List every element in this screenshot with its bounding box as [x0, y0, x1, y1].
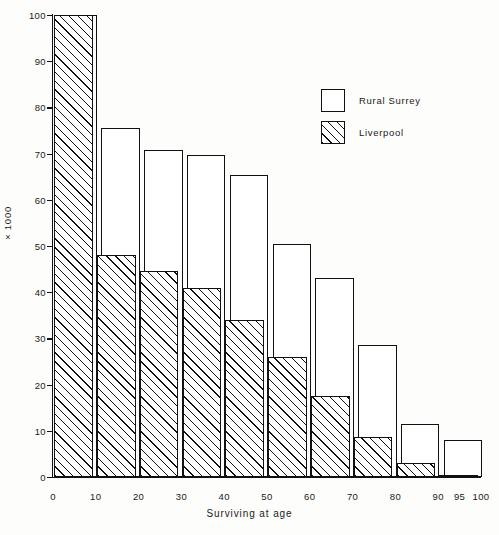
x-tick-label: 0 [50, 491, 56, 502]
bar-liverpool [311, 396, 350, 477]
x-tick-label: 20 [133, 491, 144, 502]
x-axis-title: Surviving at age [0, 508, 499, 519]
survival-bar-chart: 0102030405060708090100010203040506070809… [0, 0, 499, 535]
bar-liverpool [225, 320, 264, 477]
x-tick-label: 30 [176, 491, 187, 502]
y-tick-label: 90 [35, 56, 46, 67]
y-tick-mark [47, 154, 53, 155]
bar-liverpool [268, 357, 307, 477]
y-tick-label: 10 [35, 425, 46, 436]
y-tick-mark [47, 477, 53, 478]
x-tick-label: 70 [347, 491, 358, 502]
x-tick-label: 95 [454, 491, 465, 502]
bar-liverpool [354, 437, 393, 477]
open-square-icon [321, 89, 345, 112]
y-tick-label: 20 [35, 379, 46, 390]
y-tick-mark [47, 61, 53, 62]
legend-label-liverpool: Liverpool [359, 127, 404, 138]
x-tick-label: 10 [90, 491, 101, 502]
y-tick-label: 40 [35, 287, 46, 298]
x-tick-label: 80 [390, 491, 401, 502]
legend-item-rural-surrey: Rural Surrey [321, 84, 421, 116]
x-tick-label: 60 [304, 491, 315, 502]
y-tick-mark [47, 385, 53, 386]
x-axis-line [52, 477, 481, 478]
y-tick-label: 100 [29, 10, 46, 21]
y-tick-mark [47, 200, 53, 201]
y-tick-mark [47, 246, 53, 247]
bar-liverpool [397, 463, 436, 477]
x-tick-label: 100 [472, 491, 489, 502]
bar-rural-surrey [444, 440, 483, 477]
y-tick-mark [47, 431, 53, 432]
y-tick-mark [47, 107, 53, 108]
bar-liverpool [97, 255, 136, 477]
bar-liverpool [183, 288, 222, 477]
y-tick-label: 50 [35, 241, 46, 252]
chart-legend: Rural Surrey Liverpool [321, 84, 421, 148]
bar-liverpool [54, 15, 93, 477]
x-tick-label: 40 [219, 491, 230, 502]
y-tick-mark [47, 292, 53, 293]
y-tick-mark [47, 15, 53, 16]
y-axis-title: × 1000 [2, 206, 13, 240]
x-tick-label: 90 [433, 491, 444, 502]
bar-liverpool [140, 271, 179, 477]
y-tick-mark [47, 338, 53, 339]
bar-liverpool [439, 475, 478, 477]
legend-label-rural-surrey: Rural Surrey [359, 95, 421, 106]
y-tick-label: 70 [35, 148, 46, 159]
y-tick-label: 80 [35, 102, 46, 113]
hatched-square-icon [321, 121, 345, 144]
legend-item-liverpool: Liverpool [321, 116, 421, 148]
x-tick-label: 50 [261, 491, 272, 502]
y-tick-label: 60 [35, 194, 46, 205]
y-tick-label: 30 [35, 333, 46, 344]
y-tick-label: 0 [40, 472, 46, 483]
